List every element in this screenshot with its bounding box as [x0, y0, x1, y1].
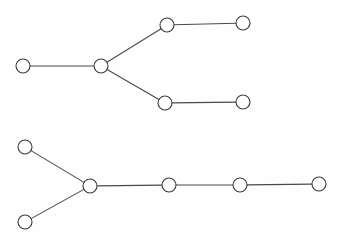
graph-edge [31, 189, 84, 218]
graph-edges-top-tree [30, 23, 236, 103]
graph-canvas [0, 0, 352, 236]
graph-figure [0, 0, 352, 236]
graph-edge [107, 70, 159, 100]
graph-node[interactable] [83, 179, 97, 193]
graph-node[interactable] [160, 18, 174, 32]
graph-node[interactable] [16, 59, 30, 73]
graph-edge [31, 151, 84, 183]
graph-edge [97, 185, 162, 186]
graph-node[interactable] [162, 178, 176, 192]
graph-node[interactable] [18, 140, 32, 154]
graph-nodes-top-tree [16, 16, 250, 110]
graph-node[interactable] [158, 96, 172, 110]
graph-node[interactable] [94, 59, 108, 73]
graph-edge [247, 184, 312, 185]
graph-node[interactable] [236, 16, 250, 30]
graph-edge [172, 102, 236, 103]
graph-node[interactable] [236, 95, 250, 109]
graph-edge [107, 29, 161, 63]
graph-node[interactable] [233, 178, 247, 192]
graph-edge [174, 23, 236, 25]
graph-node[interactable] [312, 177, 326, 191]
nodes-layer [16, 16, 326, 229]
graph-node[interactable] [18, 215, 32, 229]
